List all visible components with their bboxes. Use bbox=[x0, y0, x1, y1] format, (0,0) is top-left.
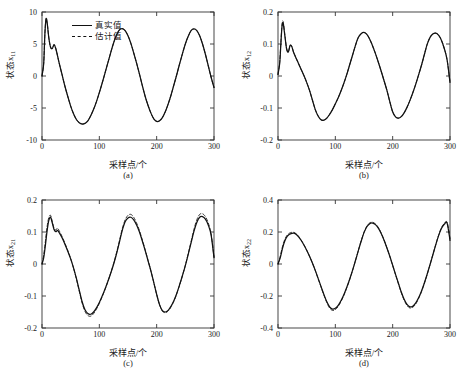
panel-b-x-tick-label: 0 bbox=[276, 142, 280, 151]
panel-c-x-tick-label: 100 bbox=[93, 330, 105, 339]
panel-a-axes-frame bbox=[42, 12, 214, 140]
panel-b-svg bbox=[278, 12, 450, 140]
legend-label-true: 真实值 bbox=[95, 20, 122, 31]
panel-b-y-tick-label: 0.2 bbox=[263, 8, 276, 17]
panel-a-series-true bbox=[42, 18, 214, 124]
legend-solid-line-icon bbox=[72, 25, 92, 26]
legend-label-estimated: 估计值 bbox=[95, 31, 122, 42]
panel-b-y-tick-label: 0 bbox=[269, 72, 276, 81]
panel-a-caption: (a) bbox=[42, 170, 214, 180]
panel-d-x-tick-label: 0 bbox=[276, 330, 280, 339]
legend-entry-estimated: 估计值 bbox=[72, 31, 122, 42]
panel-a-y-tick-label: 5 bbox=[33, 40, 40, 49]
panel-a: 状态x11 1050-5-10 0100200300 采样点/个 (a) 真实值… bbox=[0, 0, 236, 188]
panel-d-y-tick-label: 0.2 bbox=[263, 228, 276, 237]
legend: 真实值 估计值 bbox=[72, 20, 122, 42]
panel-a-y-ticks: 1050-5-10 bbox=[0, 12, 40, 140]
panel-b-x-tick-label: 200 bbox=[387, 142, 399, 151]
panel-d-y-tick-label: 0.4 bbox=[263, 196, 276, 205]
panel-d-y-ticks: 0.40.20-0.2-0.4 bbox=[236, 200, 276, 328]
panel-b-caption: (b) bbox=[278, 170, 450, 180]
figure-four-panel-state-estimation: 状态x11 1050-5-10 0100200300 采样点/个 (a) 真实值… bbox=[0, 0, 472, 376]
panel-b-plot-area bbox=[278, 12, 450, 140]
panel-a-plot-area bbox=[42, 12, 214, 140]
panel-a-x-tick-label: 200 bbox=[151, 142, 163, 151]
panel-c-series-true bbox=[42, 216, 214, 314]
panel-c-x-tick-label: 200 bbox=[151, 330, 163, 339]
panel-a-y-tick-label: 10 bbox=[29, 8, 40, 17]
panel-d-axes-frame bbox=[278, 200, 450, 328]
panel-c-y-tick-label: 0.1 bbox=[27, 228, 40, 237]
panel-c-y-tick-label: -0.1 bbox=[24, 292, 40, 301]
panel-b-y-tick-label: -0.1 bbox=[260, 104, 276, 113]
panel-b-y-ticks: 0.20.10-0.1-0.2 bbox=[236, 12, 276, 140]
panel-a-x-tick-label: 300 bbox=[208, 142, 220, 151]
panel-a-y-tick-label: 0 bbox=[33, 72, 40, 81]
panel-d-y-tick-label: -0.4 bbox=[260, 324, 276, 333]
panel-b-x-tick-label: 100 bbox=[329, 142, 341, 151]
panel-c-y-tick-label: -0.2 bbox=[24, 324, 40, 333]
panel-a-x-tick-label: 0 bbox=[40, 142, 44, 151]
panel-d-x-tick-label: 100 bbox=[329, 330, 341, 339]
panel-d-x-ticks: 0100200300 bbox=[278, 330, 450, 344]
panel-a-x-tick-label: 100 bbox=[93, 142, 105, 151]
panel-b-series-true bbox=[278, 23, 450, 121]
panel-d-svg bbox=[278, 200, 450, 328]
panel-c-x-tick-label: 300 bbox=[208, 330, 220, 339]
panel-c-y-tick-label: 0 bbox=[33, 260, 40, 269]
panel-c-y-tick-label: 0.2 bbox=[27, 196, 40, 205]
panel-d-y-tick-label: 0 bbox=[269, 260, 276, 269]
panel-b-x-ticks: 0100200300 bbox=[278, 142, 450, 156]
panel-c: 状态x21 0.20.10-0.1-0.2 0100200300 采样点/个 (… bbox=[0, 188, 236, 376]
panel-d-caption: (d) bbox=[278, 358, 450, 368]
panel-d-series-true bbox=[278, 222, 450, 309]
panel-d-series-estimated bbox=[278, 221, 450, 310]
panel-a-y-tick-label: -10 bbox=[26, 136, 40, 145]
panel-d-y-tick-label: -0.2 bbox=[260, 292, 276, 301]
legend-dashed-line-icon bbox=[72, 36, 92, 37]
panel-b-y-tick-label: -0.2 bbox=[260, 136, 276, 145]
panel-b-x-tick-label: 300 bbox=[444, 142, 456, 151]
panel-d: 状态x22 0.40.20-0.2-0.4 0100200300 采样点/个 (… bbox=[236, 188, 472, 376]
panel-b-series-estimated bbox=[278, 21, 450, 120]
panel-c-y-ticks: 0.20.10-0.1-0.2 bbox=[0, 200, 40, 328]
panel-d-x-tick-label: 300 bbox=[444, 330, 456, 339]
panel-d-plot-area bbox=[278, 200, 450, 328]
panel-c-x-ticks: 0100200300 bbox=[42, 330, 214, 344]
legend-entry-true: 真实值 bbox=[72, 20, 122, 31]
panel-b-y-tick-label: 0.1 bbox=[263, 40, 276, 49]
panel-a-svg bbox=[42, 12, 214, 140]
panel-c-series-estimated bbox=[42, 214, 214, 317]
panel-c-axes-frame bbox=[42, 200, 214, 328]
panel-a-y-tick-label: -5 bbox=[30, 104, 40, 113]
panel-c-caption: (c) bbox=[42, 358, 214, 368]
panel-d-x-tick-label: 200 bbox=[387, 330, 399, 339]
panel-b: 状态x12 0.20.10-0.1-0.2 0100200300 采样点/个 (… bbox=[236, 0, 472, 188]
panel-c-plot-area bbox=[42, 200, 214, 328]
panel-c-x-tick-label: 0 bbox=[40, 330, 44, 339]
panel-a-x-ticks: 0100200300 bbox=[42, 142, 214, 156]
panel-c-svg bbox=[42, 200, 214, 328]
